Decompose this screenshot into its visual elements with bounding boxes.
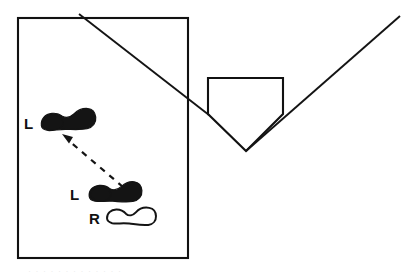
floor-area-rectangle — [18, 18, 188, 258]
footer-faint-text: · · · · · · · · · · · · · — [28, 266, 208, 273]
footprint-diagram: L L R — [0, 0, 416, 275]
upper-left-shoeprint — [40, 107, 97, 134]
lower-left-shoeprint — [88, 181, 143, 205]
movement-direction-arrow-head — [62, 134, 73, 144]
figure-canvas: L L R · · · · · · · · · · · · · — [0, 0, 416, 275]
upper-left-shoeprint-label: L — [24, 115, 33, 132]
right-diagonal-line — [246, 16, 400, 151]
right-shoeprint — [107, 207, 157, 226]
right-shoeprint-label: R — [89, 210, 100, 227]
left-diagonal-line — [79, 14, 209, 115]
movement-direction-arrow-shaft — [68, 140, 123, 187]
home-plate-pentagon — [208, 78, 283, 151]
lower-left-shoeprint-label: L — [70, 186, 79, 203]
